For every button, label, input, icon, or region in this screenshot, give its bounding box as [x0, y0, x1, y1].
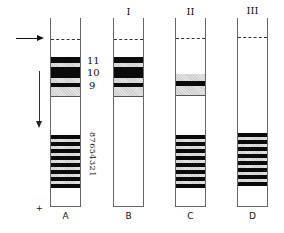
band-gap — [51, 87, 80, 96]
band-gap — [114, 87, 143, 96]
lower-band-ladder — [238, 133, 267, 186]
loading-line — [238, 37, 267, 38]
band-10 — [114, 67, 143, 78]
band-10 — [51, 67, 80, 78]
band-boundary — [51, 96, 80, 97]
band-gap — [176, 74, 205, 81]
tube-label-b: B — [113, 211, 144, 221]
tube-roman-label-i: I — [113, 6, 144, 17]
lower-band-ladder — [51, 135, 80, 188]
band-label-9: 9 — [89, 80, 95, 91]
gel-tube-d — [237, 18, 268, 207]
loading-line — [114, 39, 143, 40]
gel-tube-a — [50, 18, 81, 207]
band-boundary — [114, 96, 143, 97]
sample-loading-arrow-icon — [16, 38, 42, 39]
tube-label-d: D — [237, 211, 268, 221]
gel-tube-c — [175, 18, 206, 207]
tube-label-c: C — [175, 211, 206, 221]
band-boundary — [176, 95, 205, 96]
tube-roman-label-iii: III — [237, 5, 268, 16]
gel-tube-b — [113, 18, 144, 207]
loading-line — [51, 39, 80, 40]
tube-label-a: A — [50, 211, 81, 221]
lower-band-ladder — [176, 135, 205, 188]
tube-roman-label-ii: II — [175, 6, 206, 17]
band-label-11: 11 — [87, 55, 100, 66]
positive-electrode-label: + — [36, 204, 43, 213]
migration-direction-arrow-icon — [39, 71, 40, 125]
band-label-10: 10 — [87, 67, 100, 78]
loading-line — [176, 38, 205, 39]
band-gap — [176, 86, 205, 95]
band-labels-1-to-8: 87654321 — [87, 132, 97, 192]
